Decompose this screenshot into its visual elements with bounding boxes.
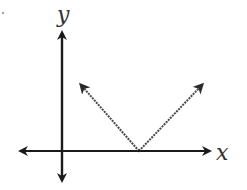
y-axis-label: y [56,2,70,27]
marker-dot [2,12,4,14]
vertex-point [138,150,141,153]
left-ray [81,85,139,151]
coordinate-diagram: y x [0,0,247,190]
absolute-value-graph [81,85,202,152]
right-ray [139,85,202,151]
x-axis-label: x [216,140,229,165]
